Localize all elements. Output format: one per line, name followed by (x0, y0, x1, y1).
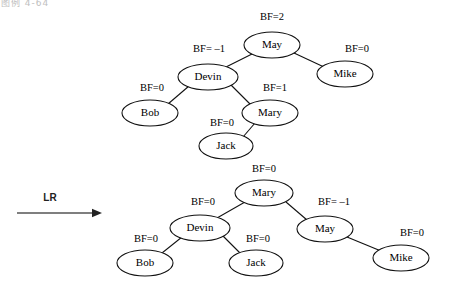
balance-factor-label: BF=0 (191, 196, 215, 207)
balance-factor-label: BF=1 (263, 82, 287, 93)
node-bob-top[interactable]: Bob BF=0 (122, 82, 178, 126)
after-rotation-tree: Mary BF=0 Devin BF=0 May BF= –1 Bob BF=0 (117, 163, 429, 276)
node-label: Bob (136, 256, 155, 268)
node-bob-bottom[interactable]: Bob BF=0 (117, 233, 173, 276)
node-mike-top[interactable]: Mike BF=0 (317, 43, 373, 87)
balance-factor-label: BF=0 (134, 233, 158, 244)
edge-devin-bob (162, 237, 182, 253)
node-jack-bottom[interactable]: Jack BF=0 (229, 233, 283, 276)
balance-factor-label: BF=0 (345, 43, 369, 54)
node-devin-bottom[interactable]: Devin BF=0 (170, 196, 230, 241)
balance-factor-label: BF=0 (140, 82, 164, 93)
balance-factor-label: BF=0 (252, 163, 276, 174)
edge-devin-jack (223, 236, 240, 253)
node-mike-bottom[interactable]: Mike BF=0 (373, 227, 429, 271)
node-label: Devin (187, 221, 214, 233)
edge-may-mike (347, 237, 381, 251)
node-jack-top[interactable]: Jack BF=0 (199, 117, 253, 159)
node-label: Mary (252, 186, 276, 198)
rotation-arrow-head (92, 209, 102, 217)
edge-mary-devin (217, 202, 245, 218)
edge-mary-jack (243, 123, 255, 137)
edge-may-devin (224, 54, 252, 68)
balance-factor-label: BF= –1 (193, 43, 225, 54)
node-devin-top[interactable]: Devin BF= –1 (178, 43, 238, 90)
avl-rotation-diagram: May BF=2 Devin BF= –1 Mike BF=0 Bob BF=0 (0, 0, 460, 291)
edge-mary-may (286, 202, 307, 220)
node-label: Jack (216, 139, 236, 151)
balance-factor-label: BF=0 (210, 117, 234, 128)
tree-nodes: Mary BF=0 Devin BF=0 May BF= –1 Bob BF=0 (117, 163, 429, 276)
balance-factor-label: BF= –1 (318, 196, 350, 207)
edge-devin-bob (168, 86, 189, 104)
node-label: Mike (389, 251, 412, 263)
node-mary-top[interactable]: Mary BF=1 (242, 82, 298, 126)
node-label: Jack (246, 256, 266, 268)
before-rotation-tree: May BF=2 Devin BF= –1 Mike BF=0 Bob BF=0 (122, 11, 373, 159)
node-label: Mary (258, 106, 282, 118)
balance-factor-label: BF=0 (400, 227, 424, 238)
edge-devin-mary (231, 85, 251, 105)
node-label: May (262, 38, 283, 50)
node-label: Mike (333, 67, 356, 79)
node-label: Bob (141, 106, 160, 118)
node-label: Devin (195, 70, 222, 82)
balance-factor-label: BF=0 (246, 233, 270, 244)
tree-nodes: May BF=2 Devin BF= –1 Mike BF=0 Bob BF=0 (122, 11, 373, 159)
rotation-operation-label: LR (43, 192, 57, 203)
node-mary-bottom[interactable]: Mary BF=0 (235, 163, 293, 206)
edge-may-mike (294, 53, 324, 67)
diagram-svg: May BF=2 Devin BF= –1 Mike BF=0 Bob BF=0 (0, 0, 460, 291)
rotation-operation: LR (17, 192, 102, 218)
node-may-bottom[interactable]: May BF= –1 (297, 196, 353, 242)
balance-factor-label: BF=2 (260, 11, 284, 22)
node-may-top[interactable]: May BF=2 (244, 11, 300, 58)
node-label: May (315, 222, 336, 234)
